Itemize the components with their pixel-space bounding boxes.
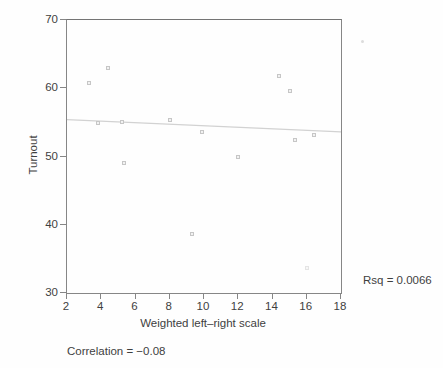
data-point	[120, 120, 124, 124]
y-tick-mark	[60, 87, 66, 88]
data-point	[288, 89, 292, 93]
plot-area	[66, 19, 342, 294]
rsq-annotation: Rsq = 0.0066	[363, 274, 432, 286]
x-axis-title: Weighted left–right scale	[140, 317, 266, 329]
data-point	[87, 81, 91, 85]
y-tick-label: 70	[28, 13, 58, 25]
scan-artifact-speck	[361, 40, 364, 43]
x-tick-mark	[340, 293, 341, 299]
x-tick-mark	[66, 293, 67, 299]
y-tick-mark	[60, 156, 66, 157]
x-tick-label: 2	[53, 300, 79, 312]
x-tick-mark	[100, 293, 101, 299]
data-point	[122, 161, 126, 165]
scatterplot-figure: Turnout 706050403024681012141618 Weighte…	[0, 0, 443, 368]
x-tick-mark	[272, 293, 273, 299]
y-tick-mark	[60, 224, 66, 225]
data-point	[190, 232, 194, 236]
y-tick-label: 30	[28, 286, 58, 298]
y-tick-label: 60	[28, 81, 58, 93]
data-point	[312, 133, 316, 137]
plot-inner	[67, 20, 341, 293]
y-tick-label: 40	[28, 218, 58, 230]
x-tick-mark	[135, 293, 136, 299]
x-tick-mark	[237, 293, 238, 299]
x-tick-label: 18	[327, 300, 353, 312]
x-tick-mark	[203, 293, 204, 299]
data-point	[168, 118, 172, 122]
x-tick-label: 8	[156, 300, 182, 312]
faint-data-point	[305, 266, 309, 270]
x-tick-label: 12	[224, 300, 250, 312]
x-tick-label: 4	[87, 300, 113, 312]
correlation-annotation: Correlation = −0.08	[67, 345, 165, 357]
regression-line	[67, 20, 341, 293]
x-tick-label: 16	[293, 300, 319, 312]
x-tick-label: 6	[122, 300, 148, 312]
data-point	[236, 155, 240, 159]
x-tick-label: 14	[259, 300, 285, 312]
x-tick-label: 10	[190, 300, 216, 312]
data-point	[293, 138, 297, 142]
x-tick-mark	[169, 293, 170, 299]
y-tick-label: 50	[28, 150, 58, 162]
data-point	[277, 74, 281, 78]
x-tick-mark	[306, 293, 307, 299]
data-point	[106, 66, 110, 70]
data-point	[96, 121, 100, 125]
data-point	[200, 130, 204, 134]
y-tick-mark	[60, 19, 66, 20]
